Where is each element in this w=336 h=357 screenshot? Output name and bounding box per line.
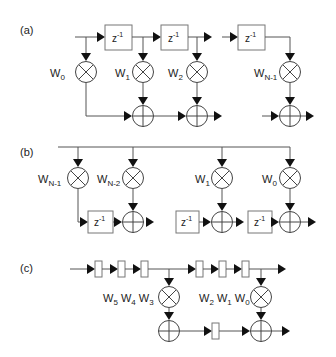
delay-block: z-1 xyxy=(176,211,199,233)
arrow-icon xyxy=(97,32,105,42)
adder-icon xyxy=(251,321,272,342)
adder-icon xyxy=(212,212,233,233)
arrow-icon xyxy=(285,97,295,105)
weight-group-label: W2 W1 W0 xyxy=(199,292,250,307)
arrow-icon xyxy=(230,32,238,42)
delay-block: z-1 xyxy=(238,25,265,50)
arrow-icon xyxy=(278,264,286,274)
arrow-icon xyxy=(285,159,295,167)
weight-label: W1 xyxy=(115,67,130,82)
multiplier-icon xyxy=(280,168,301,189)
adder-icon xyxy=(159,321,180,342)
arrow-icon xyxy=(282,326,290,336)
arrow-icon xyxy=(128,159,138,167)
panel-b-label: (b) xyxy=(20,146,33,158)
arrow-icon xyxy=(110,264,118,274)
multiplier-icon xyxy=(212,168,233,189)
panel-b-transposed-form: (b) WN-1 WN-2 W1 W0 z-1 xyxy=(20,146,316,233)
arrow-icon xyxy=(192,97,202,105)
arrow-icon xyxy=(146,217,154,227)
adder-icon xyxy=(123,212,144,233)
delay-block: z-1 xyxy=(88,211,113,233)
arrow-icon xyxy=(214,111,222,121)
arrow-icon xyxy=(217,159,227,167)
arrow-icon xyxy=(138,53,148,61)
arrow-icon xyxy=(164,312,174,320)
arrow-icon xyxy=(128,203,138,211)
delay-block: z-1 xyxy=(161,25,188,50)
arrow-icon xyxy=(285,53,295,61)
register-block xyxy=(95,261,102,277)
weight-group-label: W5 W4 W3 xyxy=(103,292,154,307)
arrow-icon xyxy=(256,278,266,286)
register-block xyxy=(242,261,249,277)
arrow-icon xyxy=(234,264,242,274)
arrow-icon xyxy=(192,53,202,61)
adder-icon xyxy=(187,106,208,127)
fir-filter-structures-diagram: (a) z-1 z-1 z-1 xyxy=(0,0,336,357)
arrow-icon xyxy=(138,97,148,105)
arrow-icon xyxy=(133,264,141,274)
arrow-icon xyxy=(306,111,314,121)
arrow-icon xyxy=(188,264,196,274)
adder-icon xyxy=(133,106,154,127)
panel-c-label: (c) xyxy=(20,262,33,274)
multiplier-icon xyxy=(159,287,180,308)
arrow-icon xyxy=(203,217,211,227)
multiplier-icon xyxy=(251,287,272,308)
arrow-icon xyxy=(153,32,161,42)
arrow-icon xyxy=(204,326,212,336)
weight-label: WN-2 xyxy=(97,173,121,188)
weight-label: W2 xyxy=(168,67,183,82)
multiplier-icon xyxy=(123,168,144,189)
arrow-icon xyxy=(308,217,316,227)
register-block xyxy=(196,261,203,277)
weight-label: WN-1 xyxy=(38,173,62,188)
arrow-icon xyxy=(285,203,295,211)
arrow-icon xyxy=(256,312,266,320)
panel-c-systolic-form: (c) W5 W4 W3 W2 W1 W0 xyxy=(20,261,290,342)
multiplier-icon xyxy=(187,62,208,83)
weight-label: W0 xyxy=(262,173,277,188)
register-block xyxy=(212,323,219,339)
panel-a-direct-form: (a) z-1 z-1 z-1 xyxy=(20,24,314,127)
arrow-icon xyxy=(73,159,83,167)
arrow-icon xyxy=(271,217,279,227)
arrow-icon xyxy=(80,217,88,227)
arrow-icon xyxy=(211,264,219,274)
arrow-icon xyxy=(242,326,250,336)
register-block xyxy=(219,261,226,277)
adder-icon xyxy=(280,212,301,233)
register-block xyxy=(118,261,125,277)
weight-label: W0 xyxy=(50,67,65,82)
arrow-icon xyxy=(114,217,122,227)
multiplier-icon xyxy=(133,62,154,83)
arrow-icon xyxy=(87,264,95,274)
arrow-icon xyxy=(204,32,212,42)
panel-a-label: (a) xyxy=(20,24,33,36)
weight-label: W1 xyxy=(195,173,210,188)
arrow-icon xyxy=(236,217,244,227)
arrow-icon xyxy=(217,203,227,211)
arrow-icon xyxy=(271,111,279,121)
delay-block: z-1 xyxy=(105,25,132,50)
register-block xyxy=(141,261,148,277)
arrow-icon xyxy=(178,111,186,121)
multiplier-icon xyxy=(280,62,301,83)
delay-block: z-1 xyxy=(248,211,272,233)
weight-label: WN-1 xyxy=(254,67,278,82)
multiplier-icon xyxy=(76,62,97,83)
adder-icon xyxy=(280,106,301,127)
arrow-icon xyxy=(124,111,132,121)
arrow-icon xyxy=(164,278,174,286)
arrow-icon xyxy=(81,53,91,61)
multiplier-icon xyxy=(68,168,89,189)
